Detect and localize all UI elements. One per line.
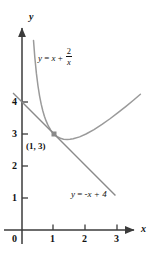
- y-axis-label: y: [29, 12, 33, 22]
- curve-eq-equals: =: [44, 53, 49, 63]
- y-tick-label-1: 1: [12, 193, 17, 203]
- x-tick-label-1: 1: [50, 234, 55, 244]
- curve-eq-term1: x: [52, 53, 56, 63]
- x-axis-label: x: [141, 224, 146, 234]
- curve-eq-plus: +: [58, 53, 63, 63]
- x-tick-label-3: 3: [114, 234, 119, 244]
- intersection-point-marker: [52, 132, 57, 137]
- origin-label: 0: [12, 234, 17, 244]
- curve-eq-denominator: x: [66, 58, 72, 67]
- y-tick-label-4: 4: [12, 97, 17, 107]
- plot-area: [0, 0, 152, 262]
- x-tick-label-2: 2: [82, 234, 87, 244]
- y-tick-label-2: 2: [12, 161, 17, 171]
- line-equation-label: y = -x + 4: [71, 190, 107, 199]
- graph-figure: y x 0 1 2 3 4 3 2 1 y = x + 2 x y = -x +…: [0, 0, 152, 262]
- curve-eq-fraction: 2 x: [66, 47, 72, 67]
- line-eq-lhs: y: [71, 189, 75, 199]
- y-tick-label-3: 3: [12, 129, 17, 139]
- curve-equation-label: y = x + 2 x: [38, 47, 72, 67]
- intersection-point-label: (1, 3): [26, 142, 46, 151]
- line-eq-rhs: -x + 4: [85, 189, 107, 199]
- line-eq-equals: =: [77, 189, 82, 199]
- curve-eq-numerator: 2: [66, 47, 72, 56]
